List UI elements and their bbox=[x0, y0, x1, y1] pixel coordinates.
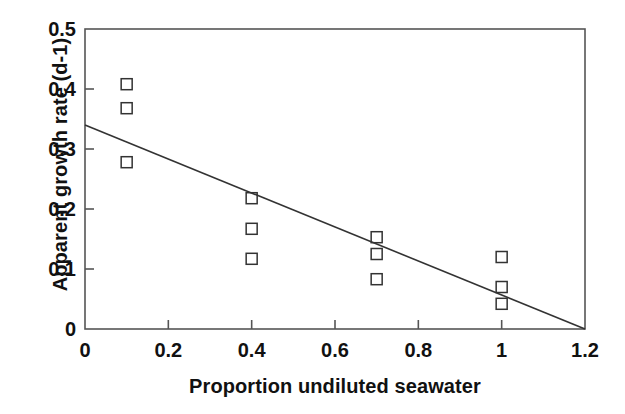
data-point-marker bbox=[121, 157, 132, 168]
plot-frame bbox=[85, 29, 585, 329]
data-point-marker bbox=[496, 252, 507, 263]
regression-line bbox=[85, 125, 585, 329]
y-axis-title: Apparent growth rate (d-1) bbox=[49, 0, 72, 330]
data-point-marker bbox=[371, 249, 382, 260]
x-axis-title: Proportion undiluted seawater bbox=[85, 375, 585, 398]
data-point-marker bbox=[371, 232, 382, 243]
x-axis-tick-marks bbox=[85, 320, 585, 329]
x-tick-label: 0.2 bbox=[138, 340, 198, 360]
data-point-markers bbox=[121, 79, 507, 310]
data-point-marker bbox=[121, 103, 132, 114]
regression-line-group bbox=[85, 125, 585, 329]
x-tick-label: 1 bbox=[472, 340, 532, 360]
chart-figure: 00.10.20.30.40.5 00.20.40.60.811.2 Appar… bbox=[0, 0, 625, 414]
y-axis-tick-marks bbox=[85, 29, 94, 329]
x-tick-label: 0.6 bbox=[305, 340, 365, 360]
data-point-marker bbox=[121, 79, 132, 90]
x-tick-label: 0 bbox=[55, 340, 115, 360]
data-point-marker bbox=[371, 274, 382, 285]
x-tick-label: 0.4 bbox=[222, 340, 282, 360]
axis-frame bbox=[85, 29, 585, 329]
x-tick-label: 0.8 bbox=[388, 340, 448, 360]
data-point-marker bbox=[496, 298, 507, 309]
x-tick-label: 1.2 bbox=[555, 340, 615, 360]
x-axis-tick-labels: 00.20.40.60.811.2 bbox=[0, 340, 625, 370]
data-point-marker bbox=[246, 253, 257, 264]
data-point-marker bbox=[496, 282, 507, 293]
data-point-marker bbox=[246, 223, 257, 234]
